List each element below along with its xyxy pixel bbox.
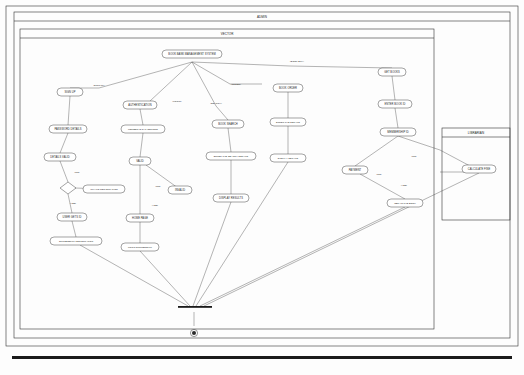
node-label: BOOK SEARCH — [218, 122, 238, 126]
edge-label-yes-3: [YES] — [401, 184, 407, 186]
node-password-details[interactable]: PASSWORD DETAILS — [49, 125, 87, 133]
node-label: INVALID — [175, 188, 185, 192]
edge-label-login: [LOGIN] — [173, 100, 182, 102]
node-label: SUCCESSFUL REGISTRATION — [59, 240, 93, 242]
edge-success-join — [80, 245, 188, 306]
node-user-gets-id[interactable]: USER GETS ID — [57, 213, 87, 221]
node-label: DETAILS VALID — [50, 155, 69, 159]
node-label: OBTAIN THE BOOK — [394, 202, 416, 204]
node-login-successful[interactable]: LOGIN SUCCESSFUL — [121, 243, 159, 251]
node-valid[interactable]: VALID — [129, 157, 151, 165]
activity-diagram: ADMIN VECTOR LIBRARIAN — [0, 0, 524, 375]
swimlane-librarian — [442, 128, 510, 220]
edge-valid-invalid — [146, 165, 178, 188]
node-display-results[interactable]: DISPLAY RESULTS — [213, 194, 249, 202]
node-sign-up[interactable]: SIGN UP — [57, 88, 83, 96]
node-label: BOOK BANK MANAGEMENT SYSTEM — [168, 52, 215, 56]
edge-getbooks-enterbookid — [392, 76, 395, 100]
edge-calculatefine-join — [204, 173, 479, 306]
swimlane-vector — [20, 29, 434, 329]
edge-label-yes-1: [YES] — [70, 202, 76, 204]
node-label: PAYMENT — [349, 168, 362, 172]
node-label: LOGIN SUCCESSFUL — [128, 246, 153, 248]
node-label: DISPLAY DETAILS — [278, 157, 299, 159]
node-member-id-and-password[interactable]: MEMBER ID & PASSWORD — [121, 125, 165, 133]
node-book-order[interactable]: BOOK ORDER — [273, 84, 303, 92]
edge-auth-memberid — [140, 109, 143, 125]
node-label: USER GETS ID — [63, 215, 82, 219]
node-label: ENTER BOOK ID — [385, 102, 406, 106]
edge-group — [60, 62, 479, 326]
node-display-details[interactable]: DISPLAY DETAILS — [270, 154, 306, 162]
edge-label-no-4: [NO] — [377, 173, 382, 175]
node-label: AUTHENTICATION — [128, 103, 151, 107]
node-obtain-the-book[interactable]: OBTAIN THE BOOK — [387, 199, 423, 207]
admin-frame — [14, 12, 510, 338]
edge-root-search — [192, 62, 228, 120]
bottom-band — [12, 356, 512, 359]
node-successful-registration[interactable]: SUCCESSFUL REGISTRATION — [50, 237, 102, 245]
edge-root-signup — [70, 62, 192, 88]
node-label: SIGN UP — [64, 90, 75, 94]
edge-loginsuccess-join — [140, 251, 190, 306]
node-calculate-fine[interactable]: CALCULATE FINE — [462, 165, 496, 173]
node-label: HOME PAGE — [132, 216, 148, 220]
node-label: MEMBERSHIP ID — [387, 130, 408, 134]
admin-frame-label: ADMIN — [257, 15, 267, 19]
synchronization-bar — [178, 306, 212, 308]
node-label: DISPLAY RESULTS — [219, 196, 243, 200]
edge-memberid-valid — [140, 133, 143, 157]
edge-root-order — [192, 62, 262, 84]
node-enter-the-details[interactable]: ENTER THE DETAILS — [270, 118, 306, 126]
edge-label-no-3: [NO] — [412, 155, 417, 157]
edge-label-no-2: [NO] — [156, 185, 161, 187]
diagram-canvas: ADMIN VECTOR LIBRARIAN — [0, 0, 524, 375]
edge-label-yes-2: [YES] — [152, 204, 158, 206]
edge-payment-obtainbook — [360, 174, 405, 199]
node-label: CALCULATE FINE — [468, 167, 491, 171]
node-invalid-registration[interactable]: INVALID REGISTRATION — [83, 185, 125, 193]
node-home-page[interactable]: HOME PAGE — [126, 214, 154, 222]
swimlane-vector-label: VECTOR — [221, 32, 235, 36]
edge-displaydetails-join — [196, 162, 288, 306]
edge-displayresults-join — [193, 202, 231, 306]
node-invalid[interactable]: INVALID — [168, 186, 192, 194]
decision-details-valid[interactable] — [60, 182, 76, 194]
node-label: ENTER THE SEARCH DETAILS — [214, 155, 249, 157]
node-book-bank-management-system[interactable]: BOOK BANK MANAGEMENT SYSTEM — [162, 50, 222, 58]
edge-root-getbooks — [192, 62, 392, 68]
node-label: VALID — [136, 159, 144, 163]
swimlane-librarian-label: LIBRARIAN — [468, 131, 484, 135]
node-authentication[interactable]: AUTHENTICATION — [123, 101, 157, 109]
node-label: ENTER THE DETAILS — [276, 121, 300, 123]
node-details-valid[interactable]: DETAILS VALID — [44, 153, 76, 161]
node-label: GET BOOKS — [384, 70, 400, 74]
edge-label-sign-up: [SIGN UP] — [93, 84, 104, 86]
node-payment[interactable]: PAYMENT — [342, 166, 368, 174]
edge-label-book-buy: [BOOK BUY] — [290, 60, 304, 62]
edge-password-detailsvalid — [60, 133, 68, 153]
node-get-books[interactable]: GET BOOKS — [378, 68, 406, 76]
node-label: PASSWORD DETAILS — [54, 127, 81, 131]
node-enter-the-search-details[interactable]: ENTER THE SEARCH DETAILS — [206, 152, 256, 160]
node-book-search[interactable]: BOOK SEARCH — [212, 120, 244, 128]
edge-signup-password — [68, 96, 70, 125]
edge-label-no-1: [NO] — [75, 171, 80, 173]
node-enter-book-id[interactable]: ENTER BOOK ID — [378, 100, 412, 108]
edge-usergetsid-success — [72, 221, 76, 237]
node-label: BOOK ORDER — [279, 86, 297, 90]
edge-label-order: [ORDER] — [231, 83, 241, 85]
edge-obtainbook-join — [200, 207, 405, 306]
edge-booksearch-enterdetails — [228, 128, 231, 152]
edge-enterbookid-membershipid — [395, 108, 398, 128]
node-membership-id[interactable]: MEMBERSHIP ID — [380, 128, 416, 136]
edge-membershipid-payment — [355, 136, 398, 166]
edge-label-search: [SEARCH] — [210, 102, 222, 104]
node-group: BOOK BANK MANAGEMENT SYSTEM SIGN UP AUTH… — [44, 50, 496, 251]
edge-detailsvalid-decision — [60, 161, 68, 182]
page-border — [6, 6, 518, 346]
final-node-core — [192, 331, 196, 335]
node-label: INVALID REGISTRATION — [90, 188, 118, 190]
node-label: MEMBER ID & PASSWORD — [128, 128, 158, 130]
